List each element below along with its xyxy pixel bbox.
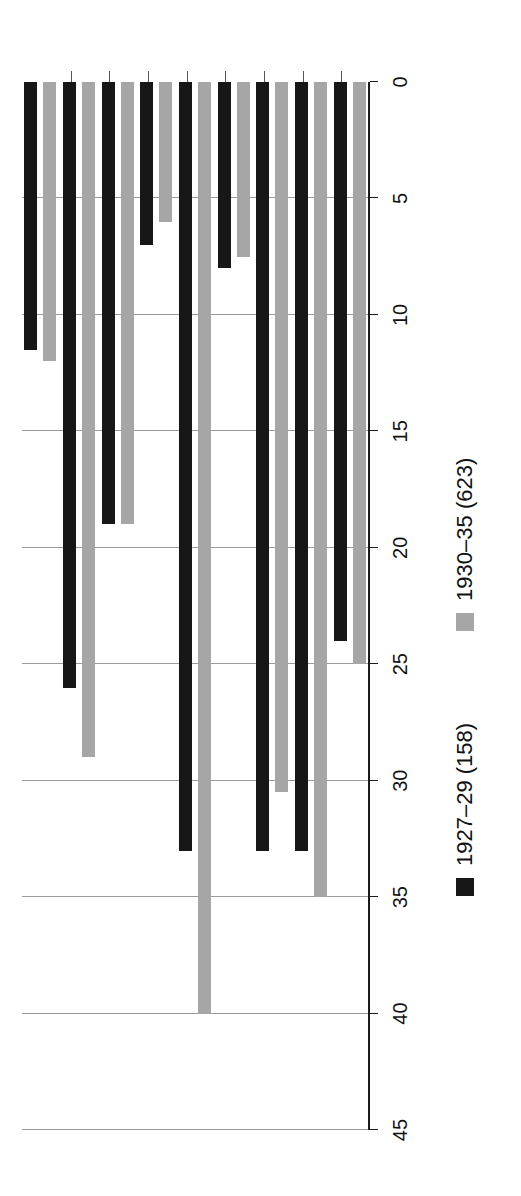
bar-group bbox=[100, 82, 138, 1130]
bar-group bbox=[177, 82, 215, 1130]
category-separator bbox=[225, 71, 226, 82]
axis-tick bbox=[370, 314, 378, 315]
axis-tick bbox=[370, 896, 378, 897]
bar bbox=[140, 82, 153, 245]
bar bbox=[159, 82, 172, 222]
axis-tick bbox=[370, 81, 378, 82]
rotated-figure-wrapper: 051015202530354045 Pro-natalistNeutral/ … bbox=[0, 0, 521, 1196]
axis-tick bbox=[370, 547, 378, 548]
bar bbox=[43, 82, 56, 361]
bar-group bbox=[332, 82, 370, 1130]
bar bbox=[275, 82, 288, 792]
category-separator bbox=[264, 71, 265, 82]
axis-tick bbox=[370, 1013, 378, 1014]
bar-group bbox=[138, 82, 176, 1130]
axis-tick-label: 45 bbox=[389, 1110, 412, 1150]
category-separator bbox=[187, 71, 188, 82]
axis-tick-label: 5 bbox=[389, 178, 412, 218]
bar-group bbox=[293, 82, 331, 1130]
legend-item: 1927–29 (158) bbox=[452, 723, 478, 896]
category-separator bbox=[148, 71, 149, 82]
category-axis-line bbox=[368, 82, 370, 1130]
axis-tick-label: 15 bbox=[389, 411, 412, 451]
axis-tick bbox=[370, 1129, 378, 1130]
axis-tick-label: 0 bbox=[389, 62, 412, 102]
bar bbox=[353, 82, 366, 664]
bar bbox=[256, 82, 269, 851]
bar bbox=[295, 82, 308, 851]
bar bbox=[198, 82, 211, 1014]
axis-tick bbox=[370, 780, 378, 781]
bar bbox=[82, 82, 95, 757]
axis-tick-label: 30 bbox=[389, 761, 412, 801]
legend-item: 1930–35 (623) bbox=[452, 458, 478, 631]
bar-group bbox=[216, 82, 254, 1130]
bar bbox=[218, 82, 231, 268]
bar bbox=[24, 82, 37, 350]
bar bbox=[237, 82, 250, 257]
category-separator bbox=[341, 71, 342, 82]
axis-tick-label: 40 bbox=[389, 994, 412, 1034]
axis-tick-label: 25 bbox=[389, 644, 412, 684]
category-separator bbox=[109, 71, 110, 82]
chart-figure: 051015202530354045 Pro-natalistNeutral/ … bbox=[0, 0, 521, 1196]
bar bbox=[334, 82, 347, 641]
bar bbox=[63, 82, 76, 688]
legend-label: 1927–29 (158) bbox=[452, 723, 478, 866]
bar bbox=[179, 82, 192, 851]
category-separator bbox=[71, 71, 72, 82]
axis-tick bbox=[370, 197, 378, 198]
plot-area: 051015202530354045 Pro-natalistNeutral/ … bbox=[22, 82, 370, 1130]
legend-swatch-icon bbox=[456, 878, 474, 896]
axis-tick bbox=[370, 663, 378, 664]
legend-label: 1930–35 (623) bbox=[452, 458, 478, 601]
axis-tick bbox=[370, 430, 378, 431]
bar-group bbox=[61, 82, 99, 1130]
category-separator bbox=[303, 71, 304, 82]
axis-tick-label: 10 bbox=[389, 295, 412, 335]
legend-swatch-icon bbox=[456, 613, 474, 631]
bar-group bbox=[254, 82, 292, 1130]
bar bbox=[102, 82, 115, 524]
bar-group bbox=[22, 82, 60, 1130]
axis-tick-label: 20 bbox=[389, 528, 412, 568]
axis-tick-label: 35 bbox=[389, 877, 412, 917]
bar bbox=[121, 82, 134, 524]
chart-legend: 1927–29 (158) 1930–35 (623) bbox=[452, 458, 478, 896]
bar bbox=[314, 82, 327, 897]
